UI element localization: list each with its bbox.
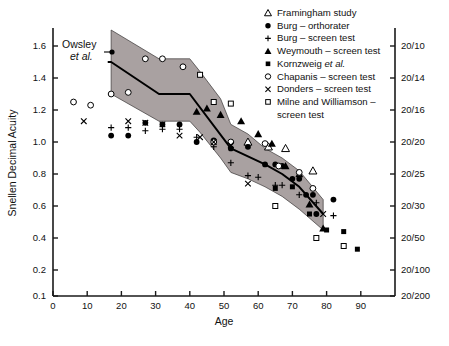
legend-item-kornzweig-et-al: Kornzweig et al. (266, 58, 346, 69)
y-tick-label-left-4: 0.8 (33, 168, 46, 179)
datapoint-framingham-study-3 (309, 167, 317, 174)
datapoint-burg-orthorater-17 (331, 197, 337, 203)
datapoint-kornzweig-et-al-4 (341, 229, 346, 234)
datapoint-chapanis-screen-test-11 (296, 169, 302, 175)
datapoint-chapanis-screen-test-5 (160, 56, 166, 62)
datapoint-donders-screen-test-8 (245, 181, 251, 187)
legend-label-milne-and-williamson: Milne and Williamson – (277, 96, 376, 107)
datapoint-donders-screen-test-0 (81, 118, 87, 124)
x-axis-ticks: 0102030405060708090 (50, 291, 366, 311)
legend-item-milne-and-williamson: Milne and Williamson –screen test (266, 96, 377, 120)
annotation-owsley: Owsleyet al. (62, 38, 115, 62)
x-tick-label-9: 90 (356, 300, 367, 311)
legend-marker-burg-orthorater (265, 23, 270, 28)
datapoint-kornzweig-et-al-5 (355, 247, 360, 252)
y-axis-title: Snellen Decimal Acuity (6, 109, 18, 217)
datapoint-chapanis-screen-test-6 (180, 64, 186, 70)
legend-marker-weymouth-screen-test (265, 48, 272, 54)
datapoint-milne-and-williamson-screen-test-2 (228, 101, 233, 106)
datapoint-weymouth-screen-test-3 (237, 117, 245, 124)
datapoint-burg-screen-test-1 (125, 125, 131, 131)
legend-label-kornzweig-et-al: Kornzweig et al. (277, 58, 345, 69)
y-axis-right-ticks: 20/1020/1420/1620/2020/2520/3020/5020/10… (390, 40, 430, 301)
datapoint-burg-orthorater-12 (289, 176, 295, 182)
y-tick-label-left-6: 0.4 (33, 232, 46, 243)
legend-item-framingham-study: Framingham study (265, 7, 357, 18)
legend-label-burg-orthorater: Burg – orthorater (277, 20, 350, 31)
x-tick-label-4: 40 (185, 300, 196, 311)
datapoint-burg-screen-test-2 (142, 128, 148, 134)
datapoint-framingham-study-2 (282, 144, 290, 151)
legend-marker-donders-screen-test (265, 87, 270, 92)
x-tick-label-0: 0 (50, 300, 55, 311)
datapoint-burg-orthorater-14 (303, 192, 309, 198)
x-tick-label-1: 10 (82, 300, 93, 311)
x-axis-title: Age (215, 315, 234, 327)
y-tick-label-right-3: 20/20 (401, 136, 425, 147)
y-tick-label-right-5: 20/30 (401, 200, 425, 211)
y-tick-label-right-8: 20/200 (401, 290, 430, 301)
datapoint-burg-orthorater-7 (228, 145, 234, 151)
legend-item-burg-orthorater: Burg – orthorater (265, 20, 350, 31)
legend-label-framingham-study: Framingham study (277, 7, 357, 18)
datapoint-burg-orthorater-8 (245, 144, 251, 150)
legend-marker-burg-screen-test (265, 36, 271, 42)
datapoint-kornzweig-et-al-1 (290, 184, 295, 189)
x-tick-label-5: 50 (219, 300, 230, 311)
datapoint-kornzweig-et-al-3 (324, 228, 329, 233)
y-tick-label-right-0: 20/10 (401, 40, 425, 51)
datapoint-donders-screen-test-1 (125, 118, 131, 124)
legend-item-donders-screen-test: Donders – screen test (265, 83, 371, 94)
legend: Framingham studyBurg – orthoraterBurg – … (265, 7, 381, 120)
x-tick-label-3: 30 (150, 300, 161, 311)
datapoint-milne-and-williamson-screen-test-5 (341, 244, 346, 249)
figure-chart-visual-acuity-vs-age: AgeSnellen Decimal Acuity1.61.41.21.00.8… (0, 0, 449, 346)
annotation-owsley-line1: Owsley (62, 38, 97, 50)
annotation-anchor-dot (109, 49, 114, 54)
legend-label-chapanis-screen-test: Chapanis – screen test (277, 71, 375, 82)
datapoint-burg-screen-test-14 (330, 213, 336, 219)
datapoint-chapanis-screen-test-12 (310, 185, 316, 191)
datapoint-kornzweig-et-al-0 (273, 186, 278, 191)
legend-label-weymouth-screen-test: Weymouth – screen test (277, 45, 381, 56)
datapoint-burg-screen-test-0 (108, 125, 114, 131)
datapoint-milne-and-williamson-screen-test-3 (273, 204, 278, 209)
annotation-owsley-line2: et al. (70, 50, 93, 62)
y-tick-label-right-4: 20/25 (401, 168, 425, 179)
datapoint-chapanis-screen-test-1 (88, 102, 94, 108)
datapoint-donders-screen-test-4 (177, 133, 183, 139)
x-tick-label-8: 80 (321, 300, 332, 311)
datapoint-burg-orthorater-16 (313, 211, 319, 217)
y-tick-label-right-6: 20/50 (401, 232, 425, 243)
legend-marker-milne-and-williamson (266, 100, 271, 105)
datapoint-kornzweig-et-al-2 (307, 212, 312, 217)
datapoint-chapanis-screen-test-4 (142, 56, 148, 62)
x-tick-label-6: 60 (253, 300, 264, 311)
y-tick-label-left-0: 1.6 (33, 40, 46, 51)
y-tick-label-left-2: 1.2 (33, 104, 46, 115)
legend-item-chapanis-screen-test: Chapanis – screen test (265, 71, 375, 82)
legend-marker-framingham-study (265, 10, 272, 16)
datapoint-burg-screen-test-4 (176, 126, 182, 132)
y-tick-label-left-8: 0.1 (33, 290, 46, 301)
legend-item-burg-screen-test: Burg – screen test (265, 32, 355, 43)
legend-item-weymouth-screen-test: Weymouth – screen test (265, 45, 381, 56)
legend-marker-chapanis-screen-test (265, 74, 270, 79)
datapoint-chapanis-screen-test-3 (125, 89, 131, 95)
y-tick-label-right-7: 20/100 (401, 264, 430, 275)
y-axis-left-ticks: 1.61.41.21.00.80.60.40.20.1 (33, 40, 58, 301)
datapoint-chapanis-screen-test-10 (276, 163, 282, 169)
y-tick-label-right-1: 20/14 (401, 72, 425, 83)
y-tick-label-left-7: 0.2 (33, 264, 46, 275)
legend-marker-kornzweig-et-al (266, 62, 271, 67)
datapoint-chapanis-screen-test-0 (71, 99, 77, 105)
x-tick-label-7: 70 (287, 300, 298, 311)
datapoint-weymouth-screen-test-4 (254, 130, 262, 137)
datapoint-chapanis-screen-test-2 (108, 91, 114, 97)
y-tick-label-left-1: 1.4 (33, 72, 46, 83)
datapoint-burg-orthorater-9 (262, 161, 268, 167)
y-tick-label-right-2: 20/16 (401, 104, 425, 115)
datapoint-burg-orthorater-15 (310, 192, 316, 198)
datapoint-burg-orthorater-0 (108, 133, 114, 139)
x-tick-label-2: 20 (116, 300, 127, 311)
